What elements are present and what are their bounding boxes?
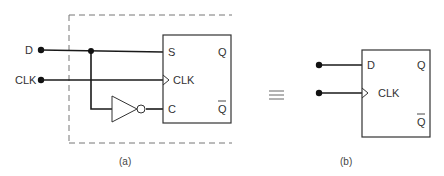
wires-a: [41, 50, 163, 109]
d-flipflop: D CLK Q Q: [362, 50, 430, 137]
caption-a: (a): [119, 156, 131, 167]
pin-clk-label: CLK: [173, 74, 195, 86]
junction-dot: [88, 48, 94, 54]
out-qbar-label: Q: [218, 103, 227, 115]
wires-b: [319, 65, 362, 93]
pin-c-label: C: [168, 103, 176, 115]
caption-b: (b): [340, 156, 352, 167]
input-d-label: D: [25, 44, 33, 56]
sc-flipflop: S CLK C Q Q: [163, 35, 231, 123]
pin-clk-label-b: CLK: [378, 87, 400, 99]
inverter-bubble: [137, 105, 145, 113]
d-flipflop-diagram: D CLK S CLK C Q Q (a): [0, 0, 444, 176]
inverter-gate: [112, 96, 145, 122]
input-d-terminal-b: [316, 62, 322, 68]
input-clk-terminal-b: [316, 90, 322, 96]
equivalence-symbol: [269, 91, 284, 99]
out-qbar-label-b: Q: [417, 116, 426, 128]
out-q-label-b: Q: [417, 59, 426, 71]
figure-a: D CLK S CLK C Q Q (a): [15, 15, 232, 167]
input-clk-label: CLK: [15, 74, 37, 86]
pin-s-label: S: [168, 46, 175, 58]
out-q-label: Q: [218, 46, 227, 58]
figure-b: D CLK Q Q (b): [316, 50, 430, 167]
pin-d-label: D: [367, 59, 375, 71]
